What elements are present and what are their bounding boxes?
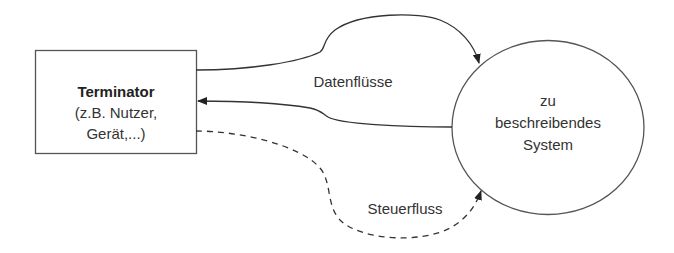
terminator-node: Terminator (z.B. Nutzer, Gerät,...) xyxy=(36,51,197,154)
context-diagram: Terminator (z.B. Nutzer, Gerät,...) zu b… xyxy=(0,0,674,253)
data-flows-label: Datenflüsse xyxy=(313,73,392,90)
system-line1: zu xyxy=(540,92,556,109)
control-flow-arrow xyxy=(196,131,481,238)
terminator-title: Terminator xyxy=(77,83,154,100)
system-line2: beschreibendes xyxy=(495,114,601,131)
control-flow-label: Steuerfluss xyxy=(367,200,442,217)
system-line3: System xyxy=(523,136,573,153)
terminator-line2: (z.B. Nutzer, xyxy=(75,104,158,121)
terminator-line3: Gerät,...) xyxy=(86,125,145,142)
system-node: zu beschreibendes System xyxy=(452,41,644,215)
data-flow-arrow-to-terminator xyxy=(198,101,452,127)
data-flow-arrow-to-system xyxy=(196,15,479,70)
